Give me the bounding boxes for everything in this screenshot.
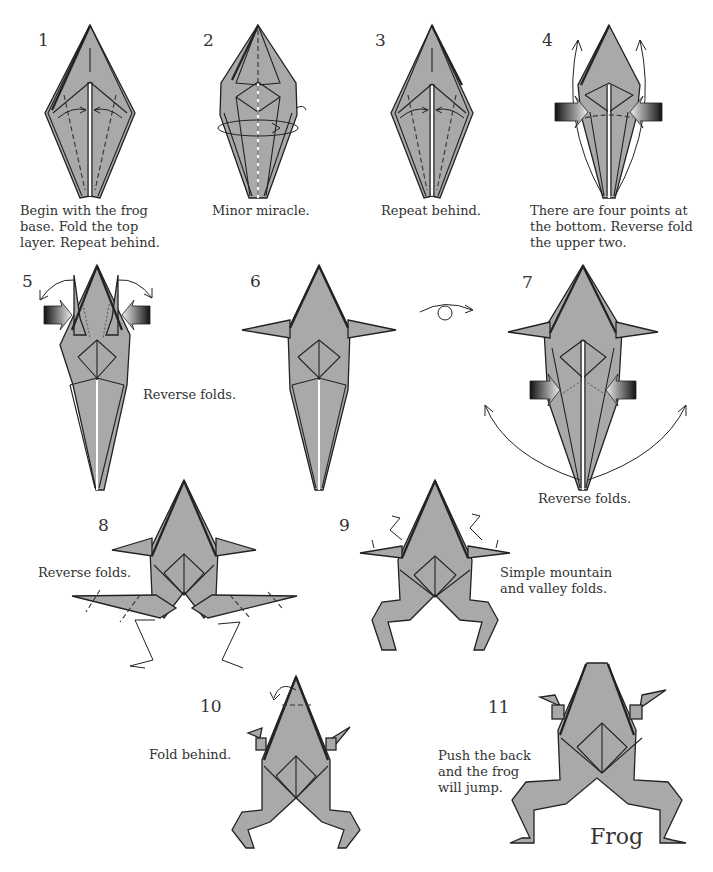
step-9-drawing	[360, 480, 510, 650]
step-1-number: 1	[38, 30, 49, 50]
step-9-number: 9	[339, 515, 350, 535]
step-7-number: 7	[522, 272, 533, 292]
step-10-drawing	[232, 676, 360, 848]
step-11-drawing	[510, 663, 686, 843]
step-5-drawing	[40, 265, 152, 490]
turn-over-icon	[420, 304, 473, 320]
diagram-drawings	[0, 0, 713, 872]
step-6-number: 6	[250, 271, 261, 291]
step-4-caption: There are four points at the bottom. Rev…	[530, 203, 693, 251]
step-5-caption: Reverse folds.	[143, 387, 236, 403]
origami-frog-diagram: 1 2 3 4 5 6 7 8 9 10 11 Begin with the f…	[0, 0, 713, 872]
step-3-number: 3	[375, 30, 386, 50]
step-11-number: 11	[488, 697, 510, 717]
step-2-drawing	[218, 25, 306, 198]
step-10-caption: Fold behind.	[149, 747, 231, 763]
step-9-caption: Simple mountain and valley folds.	[500, 565, 612, 597]
step-7-caption: Reverse folds.	[538, 491, 631, 507]
step-3-caption: Repeat behind.	[381, 203, 481, 219]
diagram-title: Frog	[590, 824, 643, 849]
step-2-number: 2	[203, 30, 214, 50]
step-1-drawing	[45, 25, 135, 198]
step-8-caption: Reverse folds.	[38, 565, 131, 581]
step-5-number: 5	[22, 271, 33, 291]
step-6-drawing	[242, 265, 396, 490]
step-1-caption: Begin with the frog base. Fold the top l…	[20, 203, 160, 251]
step-2-caption: Minor miracle.	[212, 203, 310, 219]
step-4-drawing	[555, 25, 662, 198]
step-4-number: 4	[542, 30, 553, 50]
step-11-caption: Push the back and the frog will jump.	[438, 748, 531, 796]
step-3-drawing	[391, 25, 473, 198]
step-10-number: 10	[200, 696, 222, 716]
step-8-number: 8	[98, 515, 109, 535]
step-7-drawing	[485, 265, 686, 490]
